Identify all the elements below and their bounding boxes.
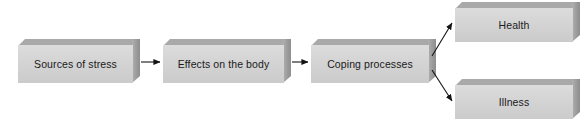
box-side-face (572, 79, 580, 119)
node-label: Health (499, 20, 530, 31)
node-health: Health (455, 2, 580, 42)
box-front-face: Coping processes (311, 45, 429, 83)
node-coping-processes: Coping processes (311, 39, 436, 83)
box-side-face (428, 39, 436, 83)
box-side-face (283, 39, 291, 83)
node-effects-on-the-body: Effects on the body (163, 39, 291, 83)
box-front-face: Illness (455, 85, 573, 119)
box-front-face: Effects on the body (163, 45, 284, 83)
box-side-face (132, 39, 140, 83)
node-label: Illness (499, 97, 529, 108)
node-label: Sources of stress (34, 59, 117, 70)
node-sources-of-stress: Sources of stress (18, 39, 140, 83)
node-illness: Illness (455, 79, 580, 119)
node-label: Coping processes (327, 59, 413, 70)
node-label: Effects on the body (178, 59, 270, 70)
flow-diagram: Sources of stress Effects on the body Co… (0, 0, 584, 121)
box-front-face: Health (455, 8, 573, 42)
box-side-face (572, 2, 580, 42)
box-front-face: Sources of stress (18, 45, 133, 83)
